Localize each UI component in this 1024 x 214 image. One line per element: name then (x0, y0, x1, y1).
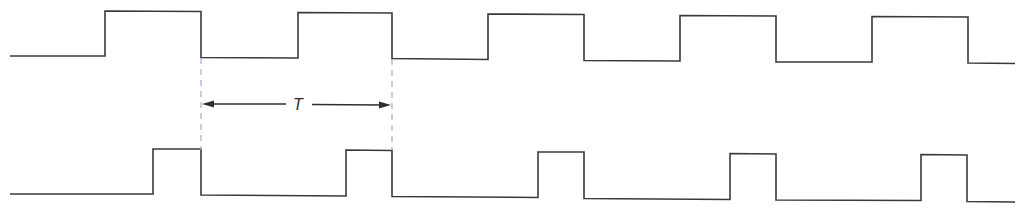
timing-diagram: T (0, 0, 1024, 214)
arrow-right-head-icon (379, 102, 391, 109)
arrow-left-head-icon (202, 101, 214, 108)
lower-pulse-wave (10, 149, 1015, 202)
period-label: T (293, 96, 304, 113)
arrow-shaft-right (312, 105, 383, 106)
upper-square-wave (10, 11, 1015, 64)
